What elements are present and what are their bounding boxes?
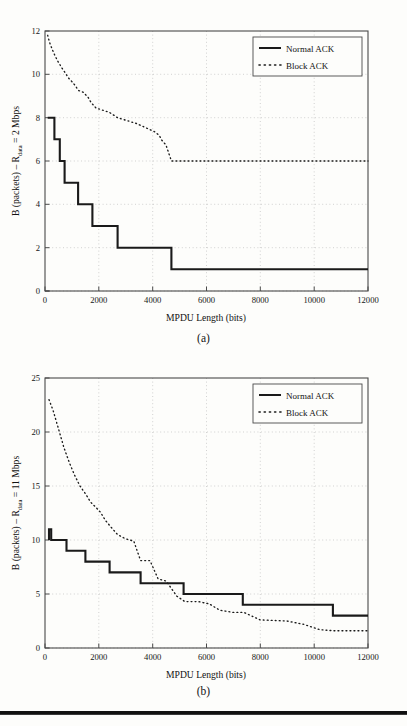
y-axis-title-sub-a: data bbox=[16, 145, 23, 156]
y-tick-label: 10 bbox=[31, 69, 40, 79]
x-tick-label: 0 bbox=[43, 295, 47, 305]
y-tick-label: 15 bbox=[31, 481, 40, 491]
y-axis-title-a: B (packets) – Rdata = 2 Mbps bbox=[10, 106, 23, 216]
figure-panel-a: Normal ACK Block ACK 0 2 4 6 8 10 12 0 2… bbox=[0, 0, 407, 360]
y-tick-label: 10 bbox=[31, 535, 40, 545]
x-tick-label: 8000 bbox=[252, 295, 269, 305]
x-axis-title-a: MPDU Length (bits) bbox=[166, 312, 246, 324]
y-tick-label: 2 bbox=[36, 243, 40, 253]
legend-label-normal-ack-a: Normal ACK bbox=[286, 44, 335, 54]
y-axis-title-tail-a: = 2 Mbps bbox=[10, 106, 21, 146]
y-tick-labels-b: 0 5 10 15 20 25 bbox=[31, 373, 40, 653]
x-tick-label: 0 bbox=[43, 652, 47, 662]
y-axis-title-tail-b: = 11 Mbps bbox=[10, 456, 21, 500]
x-tick-label: 6000 bbox=[198, 295, 215, 305]
subfigure-caption-b: (b) bbox=[0, 685, 407, 697]
x-tick-label: 6000 bbox=[198, 652, 215, 662]
y-tick-label: 0 bbox=[36, 286, 40, 296]
y-axis-title-b: B (packets) – Rdata = 11 Mbps bbox=[10, 456, 23, 571]
chart-svg-b: Normal ACK Block ACK 0 5 10 15 20 25 0 2… bbox=[0, 355, 407, 685]
y-tick-label: 25 bbox=[31, 373, 40, 383]
y-axis-title-main-a: B (packets) – R bbox=[10, 155, 22, 216]
legend-label-normal-ack-b: Normal ACK bbox=[286, 391, 335, 401]
x-tick-label: 12000 bbox=[357, 295, 378, 305]
y-tick-label: 4 bbox=[36, 199, 41, 209]
legend-a: Normal ACK Block ACK bbox=[253, 37, 362, 76]
x-tick-labels-b: 0 2000 4000 6000 8000 10000 12000 bbox=[43, 652, 379, 662]
figure-panel-b: Normal ACK Block ACK 0 5 10 15 20 25 0 2… bbox=[0, 355, 407, 710]
legend-b: Normal ACK Block ACK bbox=[253, 384, 362, 423]
x-tick-label: 2000 bbox=[90, 295, 107, 305]
plot-area-b: Normal ACK Block ACK 0 5 10 15 20 25 0 2… bbox=[0, 355, 407, 685]
x-tick-label: 10000 bbox=[303, 652, 324, 662]
y-tick-labels-a: 0 2 4 6 8 10 12 bbox=[31, 26, 40, 296]
y-tick-label: 8 bbox=[36, 113, 40, 123]
legend-label-block-ack-a: Block ACK bbox=[286, 61, 329, 71]
y-tick-label: 0 bbox=[36, 643, 40, 653]
x-tick-label: 8000 bbox=[252, 652, 269, 662]
x-axis-title-b: MPDU Length (bits) bbox=[166, 669, 246, 681]
page-footer-rule bbox=[0, 711, 407, 715]
y-axis-title-main-b: B (packets) – R bbox=[10, 510, 22, 571]
y-tick-label: 6 bbox=[36, 156, 41, 166]
chart-svg-a: Normal ACK Block ACK 0 2 4 6 8 10 12 0 2… bbox=[0, 0, 407, 330]
x-tick-label: 2000 bbox=[90, 652, 107, 662]
plot-area-a: Normal ACK Block ACK 0 2 4 6 8 10 12 0 2… bbox=[0, 0, 407, 330]
legend-label-block-ack-b: Block ACK bbox=[286, 408, 329, 418]
x-tick-label: 12000 bbox=[357, 652, 378, 662]
x-tick-label: 10000 bbox=[303, 295, 324, 305]
y-tick-label: 5 bbox=[36, 589, 40, 599]
y-tick-label: 12 bbox=[31, 26, 40, 36]
y-tick-label: 20 bbox=[31, 427, 40, 437]
y-axis-title-sub-b: data bbox=[16, 499, 23, 510]
x-tick-label: 4000 bbox=[144, 295, 161, 305]
x-tick-labels-a: 0 2000 4000 6000 8000 10000 12000 bbox=[43, 295, 379, 305]
x-tick-label: 4000 bbox=[144, 652, 161, 662]
subfigure-caption-a: (a) bbox=[0, 332, 407, 344]
